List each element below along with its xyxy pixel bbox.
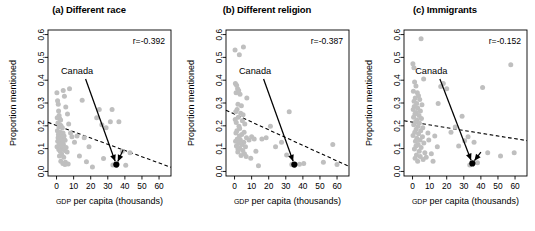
y-tick-label: 0.4 <box>392 74 402 86</box>
data-point <box>287 109 292 114</box>
data-point <box>424 155 429 160</box>
data-point <box>284 153 289 158</box>
data-point <box>123 163 128 168</box>
x-tick-label: 10 <box>69 181 79 191</box>
data-point <box>65 111 70 116</box>
data-point <box>436 101 441 106</box>
panel-immigrants: (c) Immigrants 01020304050600.00.10.20.3… <box>356 0 534 231</box>
y-axis-title: Proportion mentioned <box>364 60 374 146</box>
data-point <box>253 149 258 154</box>
data-point <box>238 92 243 97</box>
data-point <box>301 161 306 166</box>
data-point <box>273 144 278 149</box>
x-tick-label: 0 <box>410 181 415 191</box>
y-tick-label: 0.3 <box>36 97 46 109</box>
highlight-point-canada <box>469 160 475 166</box>
y-tick-label: 0.6 <box>36 28 46 40</box>
highlight-point-canada <box>113 161 119 167</box>
data-point <box>54 90 59 95</box>
y-tick-label: 0.1 <box>214 142 224 154</box>
y-tick-label: 0.3 <box>392 97 402 109</box>
y-tick-label: 0.0 <box>214 165 224 177</box>
x-tick-label: 50 <box>137 181 147 191</box>
y-tick-label: 0.0 <box>36 165 46 177</box>
highlight-point-canada <box>291 161 297 167</box>
data-point <box>87 144 92 149</box>
data-point <box>239 103 244 108</box>
data-point <box>248 156 253 161</box>
x-tick-label: 0 <box>232 181 237 191</box>
data-point <box>56 108 61 113</box>
x-tick-label: 20 <box>264 181 274 191</box>
annotation-label-canada: Canada <box>61 66 94 76</box>
data-point <box>512 150 517 155</box>
data-point <box>82 135 87 140</box>
data-point <box>419 36 424 41</box>
data-point <box>422 150 427 155</box>
data-point <box>279 140 284 145</box>
x-tick-label: 40 <box>120 181 130 191</box>
y-tick-label: 0.5 <box>36 51 46 63</box>
data-point <box>61 88 66 93</box>
data-point <box>412 147 417 152</box>
x-tick-label: 20 <box>86 181 96 191</box>
data-point <box>475 160 480 165</box>
x-tick-label: 30 <box>281 181 291 191</box>
x-tick-label: 40 <box>298 181 308 191</box>
data-point <box>69 134 74 139</box>
x-axis-title: GDP per capita (thousands) <box>234 196 341 206</box>
correlation-label: r=-0.152 <box>489 36 521 46</box>
x-tick-label: 30 <box>459 181 469 191</box>
data-point <box>297 162 302 167</box>
y-tick-label: 0.3 <box>214 97 224 109</box>
data-point <box>417 97 422 102</box>
data-point <box>419 116 424 121</box>
correlation-label: r=-0.392 <box>133 36 165 46</box>
data-point <box>448 130 453 135</box>
data-point <box>431 159 436 164</box>
x-tick-label: 20 <box>442 181 452 191</box>
data-point <box>239 153 244 158</box>
data-point <box>101 156 106 161</box>
data-point <box>330 142 335 147</box>
x-tick-label: 0 <box>54 181 59 191</box>
data-point <box>244 154 249 159</box>
plot-svg-c: 01020304050600.00.10.20.30.40.50.6Propor… <box>356 0 534 231</box>
data-point <box>242 121 247 126</box>
correlation-label: r=-0.387 <box>311 36 343 46</box>
x-tick-label: 10 <box>425 181 435 191</box>
x-tick-label: 40 <box>476 181 486 191</box>
data-point <box>456 143 461 148</box>
data-point <box>66 121 71 126</box>
data-point <box>233 109 238 114</box>
data-point <box>56 102 61 107</box>
data-point <box>233 48 238 53</box>
annotation-label-canada: Canada <box>239 66 272 76</box>
y-tick-label: 0.1 <box>392 142 402 154</box>
data-point <box>63 105 68 110</box>
data-point <box>116 119 121 124</box>
data-point <box>75 134 80 139</box>
data-point <box>429 151 434 156</box>
data-point <box>90 164 95 169</box>
data-point <box>241 112 246 117</box>
annotation-arrow <box>440 79 471 160</box>
annotation-arrow <box>264 79 294 161</box>
data-point <box>335 162 340 167</box>
data-point <box>128 150 133 155</box>
data-point <box>472 140 477 145</box>
plot-svg-a: 01020304050600.00.10.20.30.40.50.6Propor… <box>0 0 178 231</box>
y-tick-label: 0.2 <box>392 120 402 132</box>
y-tick-label: 0.2 <box>36 120 46 132</box>
data-point <box>419 102 424 107</box>
data-point <box>421 140 426 145</box>
data-point <box>60 125 65 130</box>
data-point <box>421 77 426 82</box>
y-axis-title: Proportion mentioned <box>8 60 18 146</box>
data-point <box>77 153 82 158</box>
data-point <box>435 144 440 149</box>
y-tick-label: 0.6 <box>214 28 224 40</box>
data-point <box>57 153 62 158</box>
data-point <box>460 114 465 119</box>
data-point <box>415 159 420 164</box>
